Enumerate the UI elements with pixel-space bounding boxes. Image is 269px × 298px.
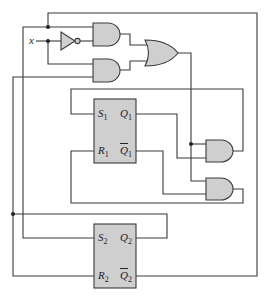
ff2-q-label: Q2 <box>120 232 132 246</box>
circuit-wiring <box>0 0 269 298</box>
junction-dot <box>46 25 50 29</box>
ff1-s-label: S1 <box>98 108 108 122</box>
and-gate-icon <box>93 59 120 82</box>
ff1-qbar-label: Q1 <box>120 145 132 159</box>
junction-dot <box>189 142 193 146</box>
ff1-r-label: R1 <box>98 145 109 159</box>
ff2-r-label: R2 <box>98 270 109 284</box>
ff2-qbar-label: Q2 <box>120 270 132 284</box>
and-gate-icon <box>206 140 233 162</box>
or-gate-icon <box>145 40 178 66</box>
input-x-label: x <box>29 35 34 46</box>
junction-dot <box>11 212 15 216</box>
ff1-q-label: Q1 <box>120 108 132 122</box>
ff2-s-label: S2 <box>98 232 108 246</box>
sequential-circuit-diagram: x S1 Q1 R1 Q1 S2 Q2 R2 Q2 <box>0 0 269 298</box>
junction-dot <box>46 39 50 43</box>
not-gate-icon <box>61 32 80 50</box>
and-gate-icon <box>206 178 233 200</box>
and-gate-icon <box>93 23 120 46</box>
